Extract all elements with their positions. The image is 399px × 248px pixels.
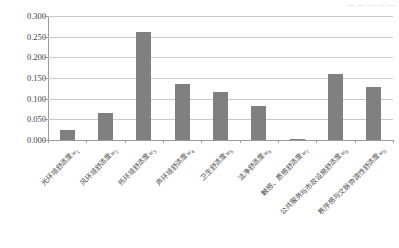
x-axis-label: 卫生舒适度w5 (196, 145, 233, 182)
x-axis-label: 秩序感与文脉协调性舒适度w9 (315, 145, 387, 217)
bar-chart: — — — — — 0.0000.0500.1000.1500.2000.250… (0, 0, 399, 248)
x-axis-label: 风环境舒适度w2 (77, 145, 119, 187)
bars-group (48, 16, 393, 140)
bar[interactable] (213, 92, 228, 140)
bar[interactable] (60, 130, 75, 140)
x-axis-label: 光环境舒适度w1 (38, 145, 80, 187)
y-axis-tick-label: 0.100 (2, 94, 46, 104)
bar[interactable] (290, 139, 305, 140)
bar-slot (366, 16, 381, 140)
cropped-header-text: — — — — — (283, 0, 395, 9)
y-axis-tick-label: 0.200 (2, 52, 46, 62)
x-axis-tick-mark (86, 140, 87, 143)
bar-slot (175, 16, 190, 140)
bar[interactable] (251, 106, 266, 140)
x-axis-tick-mark (355, 140, 356, 143)
x-axis-tick-mark (393, 140, 394, 143)
x-axis-tick-mark (316, 140, 317, 143)
bar[interactable] (328, 74, 343, 140)
bar-slot (251, 16, 266, 140)
y-axis-tick-label: 0.000 (2, 135, 46, 145)
bar-slot (290, 16, 305, 140)
x-axis-label: 公共服务与市政设施舒适度w8 (277, 145, 349, 217)
x-axis-label: 热环境舒适度w3 (115, 145, 157, 187)
bar[interactable] (136, 32, 151, 140)
gridline (48, 140, 393, 141)
x-axis-label: 洁净舒适度w6 (235, 145, 272, 182)
x-axis-tick-mark (163, 140, 164, 143)
bar-slot (328, 16, 343, 140)
bar-slot (213, 16, 228, 140)
y-axis-tick-label: 0.300 (2, 11, 46, 21)
y-axis-tick-label: 0.150 (2, 73, 46, 83)
bar[interactable] (366, 87, 381, 140)
x-axis-label: 触感、质感舒适度w7 (258, 145, 310, 197)
x-axis-tick-mark (240, 140, 241, 143)
bar-slot (136, 16, 151, 140)
y-axis-tick-label: 0.250 (2, 32, 46, 42)
y-axis-tick-label: 0.050 (2, 114, 46, 124)
x-axis-tick-mark (125, 140, 126, 143)
bar-slot (60, 16, 75, 140)
x-axis-tick-mark (48, 140, 49, 143)
x-axis-label: 声环境舒适度w4 (153, 145, 195, 187)
bar[interactable] (175, 84, 190, 140)
x-axis-tick-mark (278, 140, 279, 143)
bar[interactable] (98, 113, 113, 140)
bar-slot (98, 16, 113, 140)
x-axis-tick-mark (201, 140, 202, 143)
